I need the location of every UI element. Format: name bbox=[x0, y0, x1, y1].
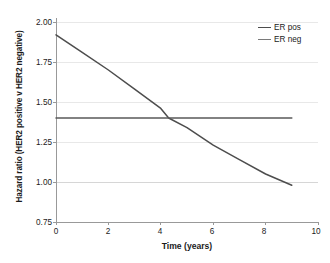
axis-ticks bbox=[53, 22, 318, 225]
data-series-group bbox=[56, 35, 292, 185]
hazard-ratio-line-chart: Hazard ratio (HER2 positive v HER2 negat… bbox=[0, 0, 330, 263]
legend-label: ER pos bbox=[274, 23, 301, 32]
legend-line-swatch-icon bbox=[258, 27, 271, 28]
axis-lines bbox=[56, 18, 318, 222]
gridlines bbox=[56, 22, 318, 182]
legend-line-swatch-icon bbox=[258, 39, 271, 40]
legend: ER pos ER neg bbox=[258, 21, 301, 45]
legend-item-er-neg: ER neg bbox=[258, 33, 301, 45]
legend-item-er-pos: ER pos bbox=[258, 21, 301, 33]
legend-label: ER neg bbox=[274, 35, 301, 44]
